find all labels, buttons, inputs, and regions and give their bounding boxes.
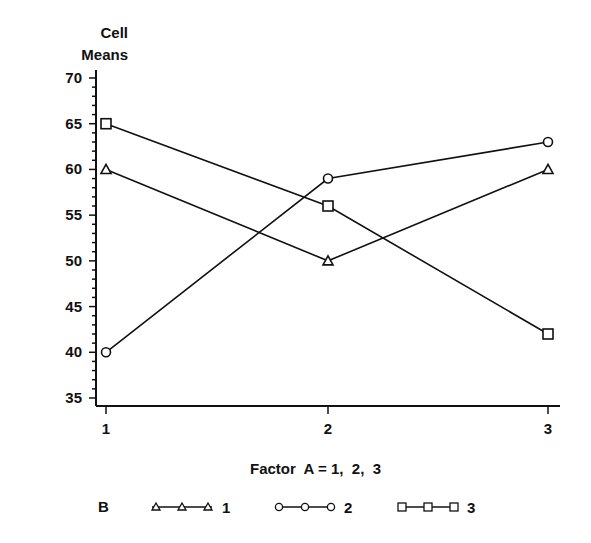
square-marker <box>323 201 333 211</box>
legend-label-3: 3 <box>467 499 475 516</box>
y-tick-label: 55 <box>42 206 82 223</box>
triangle-marker <box>101 164 111 173</box>
legend-circle-icon <box>327 503 334 510</box>
square-marker <box>543 329 553 339</box>
legend-square-icon <box>424 503 432 511</box>
x-tick-label: 2 <box>318 420 338 437</box>
y-tick-label: 50 <box>42 252 82 269</box>
y-axis-title-line1: Cell <box>90 24 128 41</box>
circle-marker <box>324 174 333 183</box>
y-axis-title-line2: Means <box>68 46 128 63</box>
series-3-line <box>106 124 548 334</box>
legend-circle-icon <box>275 503 282 510</box>
y-tick-label: 45 <box>42 298 82 315</box>
legend-square-icon <box>450 503 458 511</box>
x-tick-label: 3 <box>538 420 558 437</box>
y-tick-label: 40 <box>42 343 82 360</box>
legend-label-2: 2 <box>344 499 352 516</box>
legend-title: B <box>98 498 109 515</box>
y-tick-label: 65 <box>42 115 82 132</box>
triangle-marker <box>543 164 553 173</box>
square-marker <box>101 119 111 129</box>
y-tick-label: 70 <box>42 69 82 86</box>
y-tick-label: 60 <box>42 160 82 177</box>
legend-square-icon <box>398 503 406 511</box>
x-tick-label: 1 <box>96 420 116 437</box>
y-tick-label: 35 <box>42 389 82 406</box>
triangle-marker <box>323 256 333 265</box>
circle-marker <box>544 138 553 147</box>
legend-circle-icon <box>301 503 308 510</box>
legend-label-1: 1 <box>222 499 230 516</box>
circle-marker <box>102 348 111 357</box>
x-axis-title: Factor A = 1, 2, 3 <box>250 460 381 477</box>
